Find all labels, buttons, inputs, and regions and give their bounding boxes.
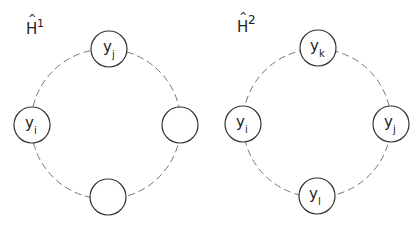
svg-text:i: i <box>34 125 37 136</box>
title-superscript: 1 <box>37 17 44 30</box>
svg-text:y: y <box>25 114 34 132</box>
svg-text:y: y <box>384 113 393 131</box>
diagram-h1: H ^ 1 y j y i <box>14 13 198 215</box>
hat-accent: ^ <box>239 11 247 22</box>
svg-text:y: y <box>310 37 319 55</box>
node-left: y i <box>14 107 50 143</box>
node-left: y i <box>225 106 261 142</box>
svg-text:y: y <box>236 113 245 131</box>
diagram-h2: H ^ 2 y k y i y j y l <box>225 11 409 214</box>
svg-text:k: k <box>319 48 325 59</box>
node-top: y j <box>91 31 127 67</box>
svg-text:y: y <box>309 185 318 203</box>
svg-text:y: y <box>103 38 112 56</box>
hat-accent: ^ <box>28 13 36 24</box>
svg-text:j: j <box>392 124 396 135</box>
node-right <box>162 107 198 143</box>
svg-text:l: l <box>318 196 321 207</box>
node-bottom <box>90 179 126 215</box>
node-bottom: y l <box>299 178 335 214</box>
diagram-canvas: H ^ 1 y j y i H ^ 2 y k <box>0 0 420 229</box>
dashed-ring <box>31 49 181 199</box>
node-right: y j <box>373 106 409 142</box>
svg-text:j: j <box>111 49 115 60</box>
node-top: y k <box>300 30 336 66</box>
title-superscript: 2 <box>248 13 256 27</box>
svg-text:i: i <box>245 124 248 135</box>
dashed-ring <box>243 49 391 197</box>
